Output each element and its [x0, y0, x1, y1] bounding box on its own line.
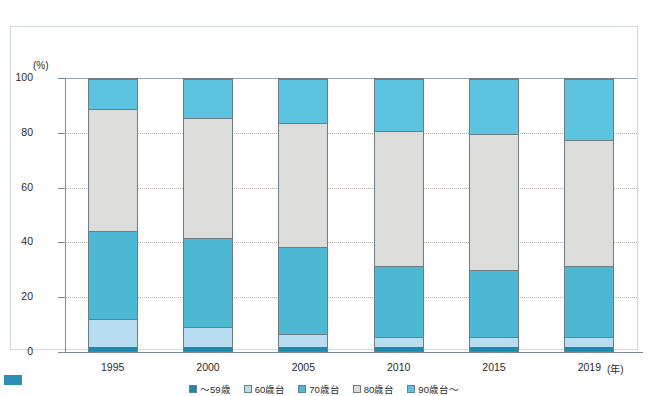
bar-segment-2015-90歳台～[interactable]	[470, 79, 518, 134]
x-tick-label-2000: 2000	[178, 361, 238, 373]
bar-segment-2005-80歳台[interactable]	[279, 123, 327, 247]
x-tick-label-2005: 2005	[273, 361, 333, 373]
bar-segment-2005-70歳台[interactable]	[279, 247, 327, 334]
legend-label: 70歳台	[309, 382, 340, 396]
x-tick-label-2015: 2015	[464, 361, 524, 373]
bar-segment-2010-80歳台[interactable]	[375, 131, 423, 266]
legend-item-90歳台～[interactable]: 90歳台～	[407, 382, 459, 396]
legend-label: 80歳台	[364, 382, 395, 396]
bar-segment-2010-70歳台[interactable]	[375, 266, 423, 337]
y-tick-label-20: 20	[0, 290, 33, 302]
legend-swatch-icon	[298, 385, 306, 393]
bar-column-2019	[564, 78, 614, 352]
bar-segment-2000-80歳台[interactable]	[184, 118, 232, 238]
y-tick-label-0: 0	[0, 345, 33, 357]
bar-segment-2015-80歳台[interactable]	[470, 134, 518, 270]
chart-legend: ～59歳60歳台70歳台80歳台90歳台～	[11, 382, 637, 396]
x-axis-labels: 199520002005201020152019	[65, 357, 643, 377]
y-tick-label-40: 40	[0, 235, 33, 247]
x-tick-label-2010: 2010	[369, 361, 429, 373]
page-corner-marker	[4, 375, 22, 385]
legend-swatch-icon	[353, 385, 361, 393]
bar-segment-1995-60歳台[interactable]	[89, 319, 137, 347]
y-tick-40	[58, 242, 65, 243]
y-axis-unit-label: (%)	[33, 60, 49, 71]
legend-item-60歳台[interactable]: 60歳台	[244, 382, 286, 396]
legend-label: ～59歳	[200, 382, 231, 396]
bar-column-2005	[278, 78, 328, 352]
y-tick-label-60: 60	[0, 181, 33, 193]
bar-segment-2000-60歳台[interactable]	[184, 327, 232, 347]
bar-segment-2019-60歳台[interactable]	[565, 337, 613, 347]
y-tick-label-100: 100	[0, 71, 33, 83]
bar-column-2010	[374, 78, 424, 352]
bar-segment-2000-90歳台～[interactable]	[184, 79, 232, 118]
bar-segment-1995-80歳台[interactable]	[89, 109, 137, 231]
x-tick-label-1995: 1995	[83, 361, 143, 373]
legend-item-80歳台[interactable]: 80歳台	[353, 382, 395, 396]
x-axis-unit-label: (年)	[607, 361, 624, 376]
bar-column-1995	[88, 78, 138, 352]
legend-swatch-icon	[407, 385, 415, 393]
y-tick-20	[58, 297, 65, 298]
bars-group	[65, 78, 637, 352]
legend-item-～59歳[interactable]: ～59歳	[189, 382, 231, 396]
bar-segment-2015-～59歳[interactable]	[470, 347, 518, 351]
y-tick-80	[58, 133, 65, 134]
legend-item-70歳台[interactable]: 70歳台	[298, 382, 340, 396]
bar-segment-2010-～59歳[interactable]	[375, 347, 423, 351]
bar-segment-2000-70歳台[interactable]	[184, 238, 232, 327]
bar-segment-2005-～59歳[interactable]	[279, 347, 327, 351]
stacked-bar[interactable]	[564, 78, 614, 352]
bar-segment-2015-70歳台[interactable]	[470, 270, 518, 337]
bar-segment-2019-80歳台[interactable]	[565, 140, 613, 266]
bar-segment-1995-90歳台～[interactable]	[89, 79, 137, 109]
x-axis-line	[65, 352, 643, 353]
y-tick-60	[58, 188, 65, 189]
bar-segment-1995-70歳台[interactable]	[89, 231, 137, 319]
plot-area: 020406080100	[65, 78, 637, 352]
y-tick-0	[58, 352, 65, 353]
bar-segment-2010-90歳台～[interactable]	[375, 79, 423, 131]
stacked-bar[interactable]	[278, 78, 328, 352]
legend-swatch-icon	[244, 385, 252, 393]
bar-segment-2019-70歳台[interactable]	[565, 266, 613, 337]
chart-figure: (%) 020406080100 19952000200520102015201…	[10, 26, 638, 350]
bar-segment-2019-90歳台～[interactable]	[565, 79, 613, 140]
bar-segment-2005-60歳台[interactable]	[279, 334, 327, 347]
stacked-bar[interactable]	[374, 78, 424, 352]
stacked-bar[interactable]	[469, 78, 519, 352]
stacked-bar[interactable]	[88, 78, 138, 352]
legend-label: 60歳台	[255, 382, 286, 396]
stacked-bar[interactable]	[183, 78, 233, 352]
bar-segment-2015-60歳台[interactable]	[470, 337, 518, 347]
bar-column-2000	[183, 78, 233, 352]
legend-label: 90歳台～	[418, 382, 459, 396]
bar-segment-2000-～59歳[interactable]	[184, 347, 232, 351]
bar-segment-1995-～59歳[interactable]	[89, 347, 137, 351]
bar-segment-2019-～59歳[interactable]	[565, 347, 613, 351]
bar-segment-2010-60歳台[interactable]	[375, 337, 423, 347]
bar-segment-2005-90歳台～[interactable]	[279, 79, 327, 123]
y-tick-label-80: 80	[0, 126, 33, 138]
y-tick-100	[58, 78, 65, 79]
legend-swatch-icon	[189, 385, 197, 393]
bar-column-2015	[469, 78, 519, 352]
